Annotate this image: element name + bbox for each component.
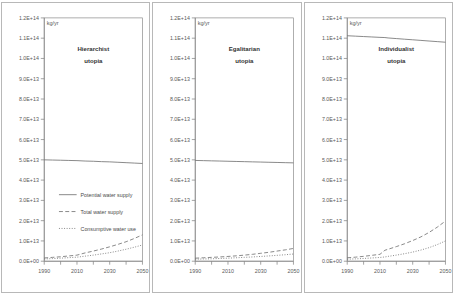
x-tick-label: 2030 bbox=[406, 268, 418, 274]
x-axis-ticks-3: 1990201020302050 bbox=[341, 261, 451, 274]
water-supply-scenarios-figure: 1.2E+141.1E+141.0E+149.0E+138.0E+137.0E+… bbox=[0, 0, 454, 295]
hierarchist-utopia-panel: 1.2E+141.1E+141.0E+149.0E+138.0E+137.0E+… bbox=[1, 2, 150, 293]
x-tick-label: 2010 bbox=[71, 268, 83, 274]
x-tick-label: 2010 bbox=[374, 268, 386, 274]
egalitarian-chart: 1.2E+141.1E+141.0E+149.0E+138.0E+137.0E+… bbox=[153, 3, 300, 292]
y-tick-label: 8.0E+13 bbox=[19, 96, 39, 102]
x-axis-ticks-1: 1990201020302050 bbox=[38, 261, 148, 274]
series-lines-2 bbox=[196, 160, 294, 259]
x-tick-label: 2030 bbox=[255, 268, 267, 274]
y-tick-label: 4.0E+13 bbox=[170, 177, 190, 183]
y-tick-label: 6.0E+13 bbox=[19, 137, 39, 143]
y-tick-label: 7.0E+13 bbox=[19, 116, 39, 122]
y-tick-label: 3.0E+13 bbox=[19, 197, 39, 203]
x-tick-label: 2010 bbox=[222, 268, 234, 274]
y-tick-label: 5.0E+13 bbox=[170, 157, 190, 163]
individualist-chart: 1.2E+141.1E+141.0E+149.0E+138.0E+137.0E+… bbox=[305, 3, 452, 292]
x-tick-label: 2050 bbox=[137, 268, 149, 274]
y-tick-label: 9.0E+13 bbox=[19, 76, 39, 82]
y-tick-label: 1.2E+14 bbox=[170, 15, 190, 21]
y-tick-label: 1.0E+14 bbox=[19, 55, 39, 61]
y-tick-label: 0.0E+00 bbox=[19, 258, 39, 264]
panel-title-line2: utopia bbox=[84, 57, 103, 64]
plot-area-border bbox=[44, 18, 142, 261]
plot-area-border bbox=[347, 18, 445, 261]
y-tick-label: 8.0E+13 bbox=[170, 96, 190, 102]
y-tick-label: 9.0E+13 bbox=[322, 76, 342, 82]
y-tick-label: 2.0E+13 bbox=[170, 218, 190, 224]
y-tick-label: 1.1E+14 bbox=[322, 35, 342, 41]
panel-title-line1: Egalitarian bbox=[229, 45, 260, 52]
x-axis-ticks-2: 1990201020302050 bbox=[190, 261, 300, 274]
y-tick-label: 1.2E+14 bbox=[19, 15, 39, 21]
series-consumptive-water-use bbox=[196, 254, 294, 259]
legend-label-consumptive: Consumptive water use bbox=[81, 226, 136, 232]
series-lines-3 bbox=[347, 36, 445, 259]
unit-label: kg/yr bbox=[349, 20, 361, 26]
series-total-water-supply bbox=[347, 221, 445, 258]
series-total-water-supply bbox=[44, 235, 142, 258]
y-tick-label: 0.0E+00 bbox=[170, 258, 190, 264]
y-tick-label: 5.0E+13 bbox=[19, 157, 39, 163]
y-tick-label: 6.0E+13 bbox=[322, 137, 342, 143]
series-total-water-supply bbox=[196, 248, 294, 258]
y-axis-ticks-3: 1.2E+141.1E+141.0E+149.0E+138.0E+137.0E+… bbox=[322, 15, 347, 264]
individualist-utopia-panel: 1.2E+141.1E+141.0E+149.0E+138.0E+137.0E+… bbox=[304, 2, 453, 293]
egalitarian-utopia-panel: 1.2E+141.1E+141.0E+149.0E+138.0E+137.0E+… bbox=[152, 2, 301, 293]
unit-label: kg/yr bbox=[198, 20, 210, 26]
y-tick-label: 3.0E+13 bbox=[170, 197, 190, 203]
y-tick-label: 9.0E+13 bbox=[170, 76, 190, 82]
y-tick-label: 7.0E+13 bbox=[170, 116, 190, 122]
panel-title-line2: utopia bbox=[236, 57, 255, 64]
y-tick-label: 5.0E+13 bbox=[322, 157, 342, 163]
series-potential-water-supply bbox=[44, 160, 142, 164]
legend-label-total: Total water supply bbox=[81, 209, 124, 215]
y-tick-label: 1.0E+13 bbox=[170, 238, 190, 244]
y-tick-label: 1.1E+14 bbox=[19, 35, 39, 41]
hierarchist-chart: 1.2E+141.1E+141.0E+149.0E+138.0E+137.0E+… bbox=[2, 3, 149, 292]
y-tick-label: 3.0E+13 bbox=[322, 197, 342, 203]
y-tick-label: 8.0E+13 bbox=[322, 96, 342, 102]
y-tick-label: 1.0E+14 bbox=[170, 55, 190, 61]
panel-title-line1: Hierarchist bbox=[77, 45, 109, 52]
y-tick-label: 1.0E+13 bbox=[322, 238, 342, 244]
y-tick-label: 2.0E+13 bbox=[322, 218, 342, 224]
panel-title-line2: utopia bbox=[387, 57, 406, 64]
series-potential-water-supply bbox=[196, 160, 294, 162]
y-tick-label: 4.0E+13 bbox=[322, 177, 342, 183]
x-tick-label: 1990 bbox=[38, 268, 50, 274]
y-axis-ticks-2: 1.2E+141.1E+141.0E+149.0E+138.0E+137.0E+… bbox=[170, 15, 195, 264]
y-tick-label: 1.0E+13 bbox=[19, 238, 39, 244]
series-potential-water-supply bbox=[347, 36, 445, 42]
x-tick-label: 1990 bbox=[190, 268, 202, 274]
x-tick-label: 2030 bbox=[104, 268, 116, 274]
x-tick-label: 2050 bbox=[288, 268, 300, 274]
plot-area-border bbox=[196, 18, 294, 261]
unit-label: kg/yr bbox=[47, 20, 59, 26]
x-tick-label: 1990 bbox=[341, 268, 353, 274]
y-tick-label: 4.0E+13 bbox=[19, 177, 39, 183]
y-tick-label: 0.0E+00 bbox=[322, 258, 342, 264]
y-tick-label: 6.0E+13 bbox=[170, 137, 190, 143]
y-axis-ticks-1: 1.2E+141.1E+141.0E+149.0E+138.0E+137.0E+… bbox=[19, 15, 44, 264]
x-tick-label: 2050 bbox=[439, 268, 451, 274]
y-tick-label: 1.1E+14 bbox=[170, 35, 190, 41]
y-tick-label: 1.2E+14 bbox=[322, 15, 342, 21]
legend-label-potential: Potential water supply bbox=[81, 192, 133, 198]
y-tick-label: 1.0E+14 bbox=[322, 55, 342, 61]
y-tick-label: 7.0E+13 bbox=[322, 116, 342, 122]
y-tick-label: 2.0E+13 bbox=[19, 218, 39, 224]
panel-title-line1: Individualist bbox=[378, 45, 413, 52]
legend: Potential water supply Total water suppl… bbox=[59, 192, 136, 232]
